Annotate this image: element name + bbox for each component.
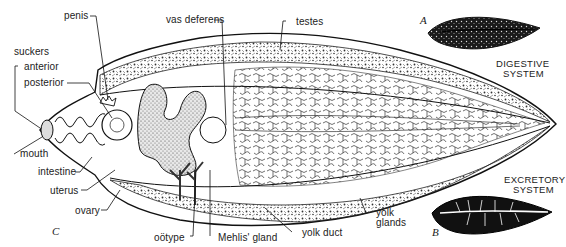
panel-label-c: C (52, 225, 59, 237)
label-yolk-glands-2: glands (376, 217, 406, 228)
panel-label-a: A (420, 14, 427, 26)
label-testes: testes (296, 16, 323, 27)
anterior-sucker (41, 120, 53, 140)
caption-excretory-2: SYSTEM (513, 185, 554, 195)
ventral-sucker (102, 110, 132, 140)
label-ootype: oötype (154, 232, 185, 243)
label-ovary: ovary (75, 205, 100, 216)
label-anterior: anterior (24, 61, 59, 72)
label-yolk-duct: yolk duct (302, 227, 342, 238)
label-mouth: mouth (20, 148, 48, 159)
inset-digestive-system (428, 17, 540, 49)
label-vas-deferens: vas deferens (166, 14, 224, 25)
panel-label-b: B (432, 226, 439, 238)
label-uterus: uterus (50, 185, 78, 196)
caption-digestive-2: SYSTEM (503, 69, 544, 79)
label-mehlis-gland: Mehlis' gland (218, 232, 277, 243)
label-penis: penis (64, 10, 88, 21)
mehlis-gland (200, 117, 226, 143)
label-suckers: suckers (14, 46, 49, 57)
inset-excretory-system (432, 196, 552, 234)
label-posterior: posterior (24, 77, 64, 88)
label-intestine: intestine (38, 166, 76, 177)
